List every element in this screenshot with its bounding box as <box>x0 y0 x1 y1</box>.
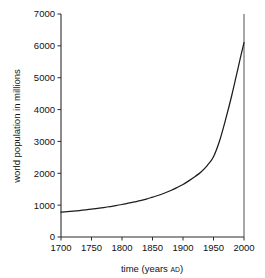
x-axis-title-era: AD <box>171 266 181 273</box>
x-tick-label-1850: 1850 <box>142 242 163 253</box>
x-tick-label-1800: 1800 <box>111 242 132 253</box>
x-tick-label-2000: 2000 <box>233 242 254 253</box>
y-tick-label-2000: 2000 <box>34 168 55 179</box>
x-axis-title-tail: ) <box>180 263 183 274</box>
y-tick-label-3000: 3000 <box>34 136 55 147</box>
x-axis-title-main: time (years <box>121 263 171 274</box>
chart-figure: 01000200030004000500060007000 1700175018… <box>0 0 265 278</box>
y-tick-label-7000: 7000 <box>34 8 55 19</box>
y-tick-label-6000: 6000 <box>34 40 55 51</box>
x-tick-label-1750: 1750 <box>81 242 102 253</box>
world-population-line-chart: 01000200030004000500060007000 1700175018… <box>0 0 265 278</box>
y-axis-title: world population in millions <box>11 69 22 184</box>
x-tick-label-1700: 1700 <box>50 242 71 253</box>
y-tick-label-4000: 4000 <box>34 104 55 115</box>
y-tick-label-5000: 5000 <box>34 72 55 83</box>
x-axis-tick-labels: 1700175018001850190019502000 <box>50 242 254 253</box>
y-tick-label-0: 0 <box>50 231 55 242</box>
y-tick-label-1000: 1000 <box>34 200 55 211</box>
x-tick-label-1900: 1900 <box>172 242 193 253</box>
x-tick-label-1950: 1950 <box>203 242 224 253</box>
